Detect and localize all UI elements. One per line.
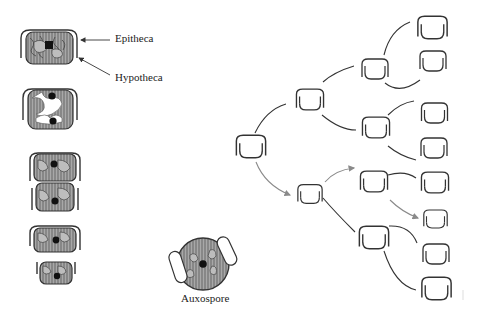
auxospore <box>167 235 238 290</box>
stage-1-cell <box>21 30 77 64</box>
cell-gen1-bottom <box>298 185 322 204</box>
cell-gen2-c <box>360 171 387 192</box>
cell-gen3-7 <box>423 244 449 264</box>
cell-gen3-1 <box>418 16 447 39</box>
cell-gen2-a <box>362 59 388 79</box>
cell-gen3-5 <box>421 172 448 193</box>
diatom-diagram: Epitheca Hypotheca Auxospore <box>0 0 478 315</box>
tree-connectors <box>255 22 420 290</box>
cell-gen3-4 <box>421 138 447 158</box>
epitheca-label: Epitheca <box>115 32 153 44</box>
division-tree <box>236 16 451 300</box>
cell-gen3-6 <box>424 210 447 228</box>
cell-gen2-d <box>359 226 388 249</box>
cell-gen2-b <box>362 117 389 138</box>
stage-3-cells <box>30 153 80 211</box>
cell-gen3-2 <box>420 51 446 71</box>
cell-gen3-8 <box>422 277 451 300</box>
epitheca-pointer <box>79 40 110 75</box>
stage-2-cell <box>23 89 77 129</box>
cell-gen3-3 <box>422 103 448 123</box>
diagram-canvas <box>0 0 478 315</box>
cell-gen0 <box>236 135 265 158</box>
cell-gen1-top <box>296 89 323 110</box>
stage-4-cells <box>30 226 80 284</box>
hypotheca-label: Hypotheca <box>115 71 163 83</box>
lineage-arrows <box>256 162 418 218</box>
auxospore-label: Auxospore <box>181 292 229 304</box>
